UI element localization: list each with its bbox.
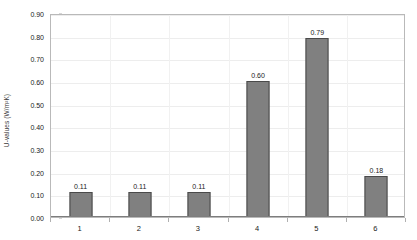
x-category-label: 5 bbox=[314, 224, 318, 233]
bar-value-label: 0.18 bbox=[370, 167, 384, 174]
bar-value-label: 0.11 bbox=[133, 183, 146, 190]
bar-value-label: 0.11 bbox=[192, 183, 205, 190]
y-tick-label: 0.10 bbox=[30, 192, 44, 199]
bar-chart: U-values (W/m²K) 0.900.800.700.600.500.4… bbox=[0, 0, 417, 240]
y-tick-label: 0.90 bbox=[30, 11, 44, 18]
y-tick-label: 0.80 bbox=[30, 33, 44, 40]
bar[interactable] bbox=[128, 192, 151, 217]
plot-area: 0.110.110.110.600.790.18 bbox=[50, 14, 405, 218]
bar-value-label: 0.60 bbox=[251, 72, 265, 79]
x-category-label: 3 bbox=[196, 224, 200, 233]
x-category-label: 6 bbox=[373, 224, 377, 233]
x-axis: 123456 bbox=[50, 218, 405, 240]
x-tick-mark bbox=[50, 218, 51, 222]
x-category-label: 4 bbox=[255, 224, 259, 233]
x-category-label: 1 bbox=[77, 224, 81, 233]
x-category-label: 2 bbox=[137, 224, 141, 233]
y-tick-label: 0.60 bbox=[30, 79, 44, 86]
bar[interactable] bbox=[69, 192, 92, 217]
y-tick-label: 0.30 bbox=[30, 147, 44, 154]
y-tick-label: 0.00 bbox=[30, 215, 44, 222]
bar[interactable] bbox=[187, 192, 210, 217]
x-tick-mark bbox=[228, 218, 229, 222]
bar-value-label: 0.79 bbox=[310, 29, 324, 36]
bar[interactable] bbox=[365, 176, 388, 217]
bar-value-label: 0.11 bbox=[74, 183, 87, 190]
bar-slot: 0.18 bbox=[347, 15, 406, 217]
bar-slot: 0.11 bbox=[110, 15, 169, 217]
bar-series: 0.110.110.110.600.790.18 bbox=[51, 15, 404, 217]
bar-slot: 0.60 bbox=[229, 15, 288, 217]
bar-slot: 0.11 bbox=[51, 15, 110, 217]
y-tick-label: 0.20 bbox=[30, 169, 44, 176]
y-axis-title-label: U-values (W/m²K) bbox=[4, 93, 11, 146]
y-tick-label: 0.70 bbox=[30, 56, 44, 63]
x-tick-mark bbox=[168, 218, 169, 222]
chart-title-cropped bbox=[0, 0, 417, 7]
bar-slot: 0.79 bbox=[288, 15, 347, 217]
bar[interactable] bbox=[306, 38, 329, 217]
x-tick-mark bbox=[346, 218, 347, 222]
bar[interactable] bbox=[247, 81, 270, 217]
x-tick-mark bbox=[287, 218, 288, 222]
x-tick-mark bbox=[109, 218, 110, 222]
bar-slot: 0.11 bbox=[169, 15, 228, 217]
y-tick-label: 0.50 bbox=[30, 101, 44, 108]
axis-baseline bbox=[51, 216, 404, 217]
y-axis-title: U-values (W/m²K) bbox=[0, 0, 14, 240]
y-tick-label: 0.40 bbox=[30, 124, 44, 131]
x-tick-mark bbox=[405, 218, 406, 222]
y-axis-tick-labels: 0.900.800.700.600.500.400.300.200.100.00 bbox=[14, 14, 48, 218]
